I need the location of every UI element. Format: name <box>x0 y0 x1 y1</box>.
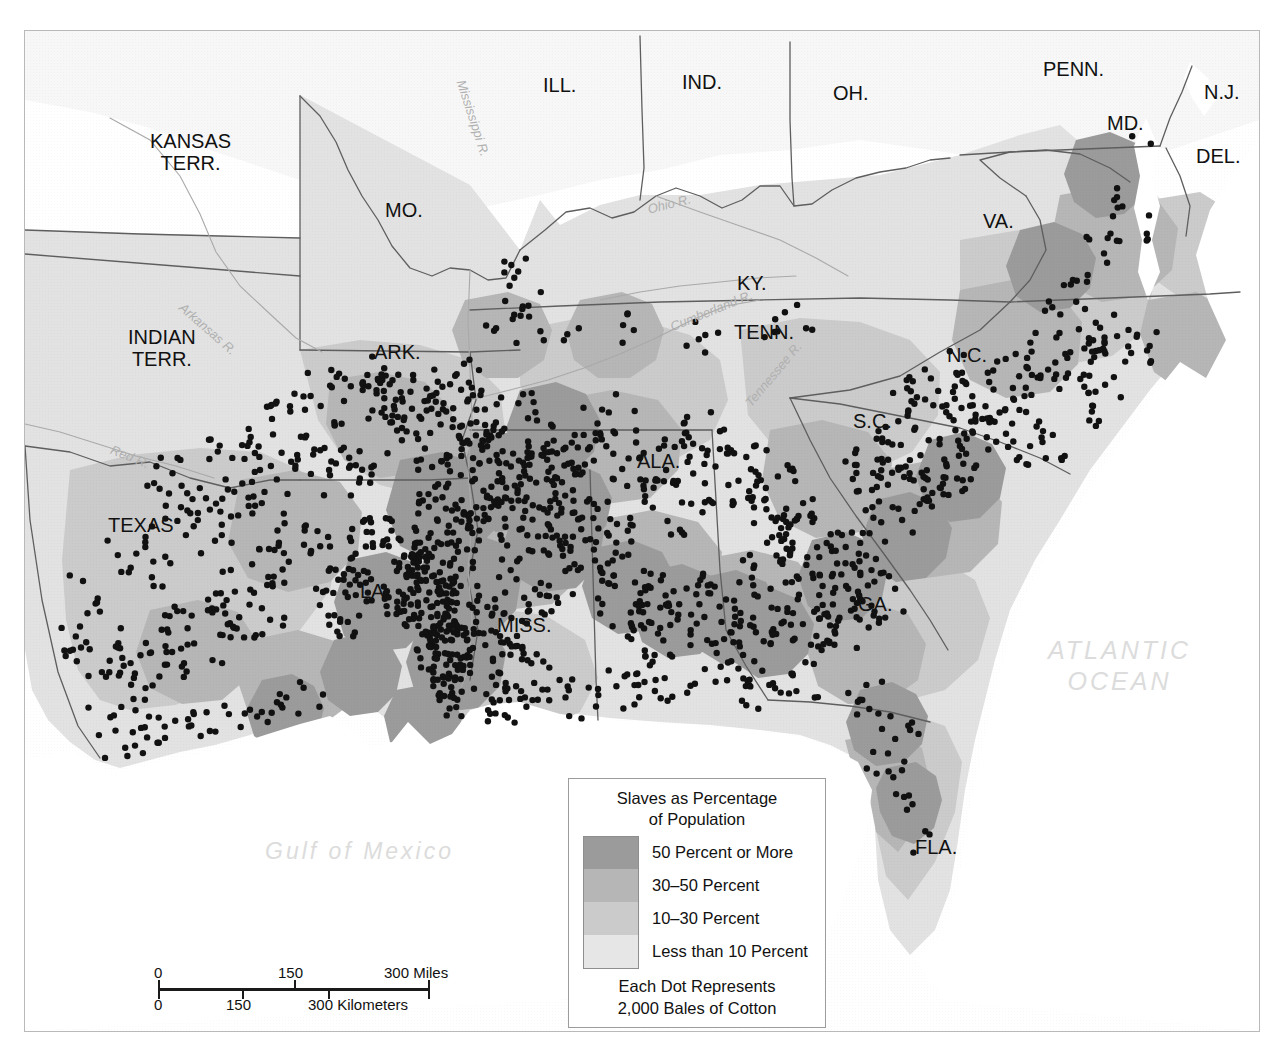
cotton-dot <box>819 583 825 589</box>
cotton-dot <box>346 455 352 461</box>
state-label-georgia: GA. <box>858 594 892 615</box>
cotton-dot <box>561 337 567 343</box>
cotton-dot <box>476 527 482 533</box>
cotton-dot <box>889 470 895 476</box>
cotton-dot <box>591 546 597 552</box>
cotton-dot <box>508 463 514 469</box>
cotton-dot <box>828 543 834 549</box>
cotton-dot <box>690 470 696 476</box>
cotton-dot <box>973 462 979 468</box>
cotton-dot <box>985 370 991 376</box>
cotton-dot <box>384 611 390 617</box>
cotton-dot <box>684 414 690 420</box>
cotton-dot <box>149 574 155 580</box>
cotton-dot <box>969 428 975 434</box>
cotton-dot <box>443 505 449 511</box>
cotton-dot <box>445 461 451 467</box>
cotton-dot <box>326 467 332 473</box>
cotton-dot <box>498 537 504 543</box>
cotton-dot <box>904 807 910 813</box>
cotton-dot <box>820 602 826 608</box>
cotton-dot <box>415 510 421 516</box>
cotton-dot <box>252 469 258 475</box>
cotton-dot <box>882 538 888 544</box>
cotton-dot <box>1146 212 1152 218</box>
cotton-dot <box>632 408 638 414</box>
cotton-dot <box>496 574 502 580</box>
cotton-dot <box>259 605 265 611</box>
cotton-dot <box>559 479 565 485</box>
cotton-dot <box>1070 277 1076 283</box>
cotton-dot <box>266 546 272 552</box>
state-label-new-jersey: N.J. <box>1204 82 1240 103</box>
cotton-dot <box>702 480 708 486</box>
cotton-dot <box>454 600 460 606</box>
cotton-dot <box>929 490 935 496</box>
cotton-dot <box>1003 431 1009 437</box>
cotton-dot <box>321 492 327 498</box>
cotton-dot <box>185 716 191 722</box>
cotton-dot <box>571 561 577 567</box>
cotton-dot <box>280 622 286 628</box>
cotton-dot <box>478 387 484 393</box>
cotton-dot <box>286 559 292 565</box>
cotton-dot <box>162 643 168 649</box>
cotton-dot <box>146 713 152 719</box>
cotton-dot <box>219 660 225 666</box>
cotton-dot <box>529 516 535 522</box>
cotton-dot <box>449 507 455 513</box>
cotton-dot <box>488 504 494 510</box>
cotton-dot <box>782 309 788 315</box>
cotton-dot <box>236 614 242 620</box>
cotton-dot <box>833 548 839 554</box>
cotton-dot <box>533 479 539 485</box>
cotton-dot <box>506 283 512 289</box>
cotton-dot <box>458 472 464 478</box>
cotton-dot <box>499 556 505 562</box>
cotton-dot <box>528 660 534 666</box>
cotton-dot <box>619 553 625 559</box>
cotton-dot <box>728 629 734 635</box>
cotton-dot <box>939 403 945 409</box>
cotton-dot <box>750 614 756 620</box>
state-label-delaware: DEL. <box>1196 146 1240 167</box>
cotton-dot <box>886 573 892 579</box>
cotton-dot <box>512 482 518 488</box>
cotton-dot <box>873 770 879 776</box>
cotton-dot <box>535 533 541 539</box>
cotton-dot <box>307 393 313 399</box>
cotton-dot <box>388 527 394 533</box>
state-label-florida: FLA. <box>915 837 957 858</box>
cotton-dot <box>502 524 508 530</box>
cotton-dot <box>605 499 611 505</box>
cotton-dot <box>908 388 914 394</box>
cotton-dot <box>554 450 560 456</box>
cotton-dot <box>631 327 637 333</box>
cotton-dot <box>783 579 789 585</box>
cotton-dot <box>633 439 639 445</box>
cotton-dot <box>159 627 165 633</box>
cotton-dot <box>637 476 643 482</box>
cotton-dot <box>1116 238 1122 244</box>
cotton-dot <box>1027 339 1033 345</box>
cotton-dot <box>661 442 667 448</box>
cotton-dot <box>1096 418 1102 424</box>
cotton-dot <box>443 484 449 490</box>
cotton-dot <box>851 606 857 612</box>
cotton-dot <box>467 524 473 530</box>
cotton-dot <box>330 590 336 596</box>
cotton-dot <box>865 582 871 588</box>
cotton-dot <box>132 670 138 676</box>
cotton-dot <box>879 679 885 685</box>
ocean-label-gulf-of-mexico: Gulf of Mexico <box>265 838 454 865</box>
cotton-dot <box>396 609 402 615</box>
cotton-dot <box>551 437 557 443</box>
cotton-dot <box>207 436 213 442</box>
cotton-dot <box>268 463 274 469</box>
cotton-dot <box>458 497 464 503</box>
cotton-dot <box>497 670 503 676</box>
cotton-dot <box>453 704 459 710</box>
cotton-dot <box>106 669 112 675</box>
cotton-dot <box>1082 306 1088 312</box>
cotton-dot <box>929 503 935 509</box>
